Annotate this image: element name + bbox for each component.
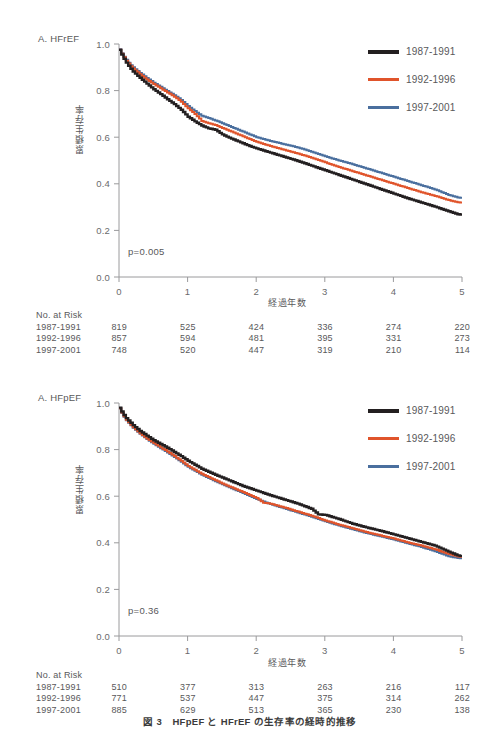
table-row: 1992-1996 771537447375314262	[36, 693, 82, 705]
risk-cell: 510	[97, 682, 127, 694]
risk-cell: 262	[440, 693, 470, 705]
table-row: 1987-1991 819525424336274220	[36, 322, 82, 334]
risk-row-label: 1987-1991	[36, 682, 81, 694]
svg-text:2: 2	[253, 645, 258, 656]
panel-hfpef: A. HFpEF 累積生存率 0.00.20.40.60.81.0012345 …	[0, 368, 500, 714]
svg-text:0.4: 0.4	[96, 537, 110, 548]
risk-cell: 447	[234, 693, 264, 705]
risk-cell: 263	[303, 682, 333, 694]
risk-cell: 216	[371, 682, 401, 694]
risk-cell: 319	[303, 345, 333, 357]
figure-root: A. HFrEF 累積生存率 0.00.20.40.60.81.0012345 …	[0, 0, 500, 734]
svg-text:3: 3	[322, 286, 327, 297]
svg-text:0.8: 0.8	[96, 444, 110, 455]
svg-text:0.6: 0.6	[96, 132, 110, 143]
panel-a-pvalue: p=0.005	[128, 246, 165, 257]
legend-label: 1987-1991	[406, 46, 456, 57]
risk-cell: 313	[234, 682, 264, 694]
svg-text:0: 0	[116, 645, 121, 656]
risk-cell: 395	[303, 333, 333, 345]
svg-text:0: 0	[116, 286, 121, 297]
risk-cell: 336	[303, 322, 333, 334]
risk-cell: 819	[97, 322, 127, 334]
svg-text:0.0: 0.0	[96, 631, 110, 642]
legend-item-1987-1991: 1987-1991	[368, 46, 456, 57]
legend-label: 1997-2001	[406, 102, 456, 113]
table-row: 1997-2001 748520447319210114	[36, 345, 82, 357]
svg-text:1: 1	[185, 286, 190, 297]
svg-text:0.8: 0.8	[96, 85, 110, 96]
risk-cell: 273	[440, 333, 470, 345]
risk-cell: 537	[166, 693, 196, 705]
line-swatch-blue-icon	[368, 106, 399, 109]
svg-text:0.2: 0.2	[96, 225, 110, 236]
risk-cell: 375	[303, 693, 333, 705]
legend-item-1997-2001: 1997-2001	[368, 461, 456, 472]
risk-cell: 220	[440, 322, 470, 334]
line-swatch-black-icon	[368, 50, 399, 54]
panel-a-risk-table: No. at Risk 1987-1991 819525424336274220…	[36, 310, 82, 356]
risk-cell: 117	[440, 682, 470, 694]
legend-item-1987-1991: 1987-1991	[368, 405, 456, 416]
svg-text:1.0: 1.0	[96, 39, 110, 50]
line-swatch-black-icon	[368, 409, 399, 413]
legend-label: 1997-2001	[406, 461, 456, 472]
risk-row-label: 1992-1996	[36, 333, 81, 345]
risk-row-label: 1987-1991	[36, 322, 81, 334]
risk-cell: 274	[371, 322, 401, 334]
svg-text:0.4: 0.4	[96, 178, 110, 189]
legend-label: 1987-1991	[406, 405, 456, 416]
legend-item-1992-1996: 1992-1996	[368, 433, 456, 444]
table-row: 1992-1996 857594481395331273	[36, 333, 82, 345]
risk-cell: 447	[234, 345, 264, 357]
risk-cell: 331	[371, 333, 401, 345]
risk-cell: 210	[371, 345, 401, 357]
risk-cell: 114	[440, 345, 470, 357]
risk-cell: 771	[97, 693, 127, 705]
risk-cell: 314	[371, 693, 401, 705]
risk-cell: 857	[97, 333, 127, 345]
legend-label: 1992-1996	[406, 433, 456, 444]
svg-text:1: 1	[185, 645, 190, 656]
panel-a-x-axis-label: 経過年数	[268, 296, 306, 309]
risk-cell: 424	[234, 322, 264, 334]
line-swatch-orange-icon	[368, 437, 399, 440]
risk-cell: 525	[166, 322, 196, 334]
svg-text:5: 5	[459, 645, 464, 656]
svg-text:4: 4	[391, 286, 396, 297]
panel-b-x-axis-label: 経過年数	[268, 656, 306, 669]
svg-text:5: 5	[459, 286, 464, 297]
risk-cell: 594	[166, 333, 196, 345]
panel-b-risk-table: No. at Risk 1987-1991 510377313263216117…	[36, 670, 82, 716]
line-swatch-blue-icon	[368, 465, 399, 468]
risk-cell: 481	[234, 333, 264, 345]
panel-a-legend: 1987-1991 1992-1996 1997-2001	[368, 46, 456, 113]
panel-b-plot: 0.00.20.40.60.81.0012345	[0, 359, 500, 659]
svg-text:2: 2	[253, 286, 258, 297]
panel-b-pvalue: p=0.36	[128, 605, 159, 616]
legend-item-1992-1996: 1992-1996	[368, 74, 456, 85]
line-swatch-orange-icon	[368, 78, 399, 81]
risk-table-title: No. at Risk	[36, 670, 82, 682]
svg-text:4: 4	[391, 645, 396, 656]
risk-row-label: 1992-1996	[36, 693, 81, 705]
svg-text:1.0: 1.0	[96, 398, 110, 409]
panel-hfref: A. HFrEF 累積生存率 0.00.20.40.60.81.0012345 …	[0, 0, 500, 368]
risk-cell: 748	[97, 345, 127, 357]
legend-label: 1992-1996	[406, 74, 456, 85]
risk-row-label: 1997-2001	[36, 345, 81, 357]
panel-a-plot: 0.00.20.40.60.81.0012345	[0, 0, 500, 300]
figure-caption: 図 3 HFpEF と HFrEF の生存率の経時的推移	[0, 714, 500, 728]
risk-table-title: No. at Risk	[36, 310, 82, 322]
panel-b-legend: 1987-1991 1992-1996 1997-2001	[368, 405, 456, 472]
svg-text:3: 3	[322, 645, 327, 656]
risk-cell: 377	[166, 682, 196, 694]
risk-cell: 520	[166, 345, 196, 357]
svg-text:0.2: 0.2	[96, 584, 110, 595]
svg-text:0.6: 0.6	[96, 491, 110, 502]
table-row: 1987-1991 510377313263216117	[36, 682, 82, 694]
legend-item-1997-2001: 1997-2001	[368, 102, 456, 113]
svg-text:0.0: 0.0	[96, 272, 110, 283]
